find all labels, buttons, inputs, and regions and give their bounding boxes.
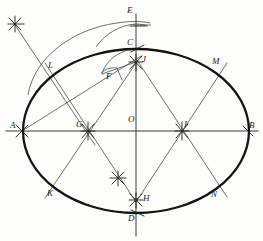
line-H-I-M (136, 63, 227, 202)
point-label-M: M (212, 57, 220, 66)
mark-cross-lower-centre (110, 171, 126, 186)
point-label-O: O (128, 115, 135, 124)
line-J-G-K (45, 60, 138, 198)
arc-E-ridge (96, 24, 148, 47)
point-label-C: C (127, 38, 133, 47)
mark-cross-upper-left (8, 16, 24, 32)
point-label-B: B (249, 121, 255, 130)
point-label-A: A (10, 121, 16, 130)
geometry-figure: A B C D E F G H I J K L M N O (0, 0, 263, 241)
point-label-N: N (211, 190, 217, 199)
point-label-F: F (106, 72, 112, 81)
point-label-J: J (142, 55, 146, 64)
mark-G (81, 122, 95, 140)
point-label-G: G (76, 120, 83, 129)
axes (6, 14, 258, 236)
point-label-K: K (47, 189, 53, 198)
point-label-D: D (128, 214, 135, 223)
point-label-I: I (184, 120, 187, 129)
point-label-L: L (48, 61, 53, 70)
mark-H (129, 193, 143, 208)
point-label-H: H (143, 194, 150, 203)
point-label-E: E (127, 6, 133, 15)
